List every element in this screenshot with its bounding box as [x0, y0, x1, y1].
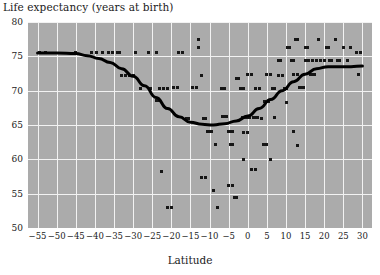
- x-axis-tick-label: 0: [245, 231, 250, 241]
- x-axis-tick-label: −20: [162, 231, 180, 241]
- x-axis-tick-label: −55: [29, 231, 47, 241]
- trend-line-path: [38, 53, 363, 125]
- x-axis-tick-label: −40: [86, 231, 104, 241]
- x-axis-tick-label: −50: [48, 231, 66, 241]
- y-axis-tick-label: 60: [0, 154, 23, 164]
- x-axis-tick-label: 25: [338, 231, 349, 241]
- x-axis-tick-label: −45: [67, 231, 85, 241]
- x-axis-tick-label: −15: [181, 231, 199, 241]
- y-axis-tick-label: 55: [0, 189, 23, 199]
- x-axis-tick-label: −30: [124, 231, 142, 241]
- y-axis-tick-label: 65: [0, 120, 23, 130]
- x-axis-tick-label: 10: [281, 231, 292, 241]
- x-axis-tick-label: −10: [201, 231, 219, 241]
- x-axis-tick-label: −5: [222, 231, 235, 241]
- y-axis-tick-label: 75: [0, 51, 23, 61]
- chart-title: Life expectancy (years at birth): [3, 1, 174, 13]
- plot-area: [28, 22, 372, 228]
- x-axis-title: Latitude: [0, 254, 380, 266]
- life-expectancy-latitude-figure: Life expectancy (years at birth) 5055606…: [0, 0, 380, 275]
- x-axis-tick-label: 20: [319, 231, 330, 241]
- x-axis-tick-label: −25: [143, 231, 161, 241]
- x-axis-tick-label: 15: [300, 231, 311, 241]
- x-axis-tick-label: −35: [105, 231, 123, 241]
- y-axis-tick-label: 70: [0, 86, 23, 96]
- fitted-trend-curve: [28, 22, 372, 228]
- x-axis-tick-labels: −55−50−45−40−35−30−25−20−15−10−505101520…: [0, 231, 380, 245]
- x-axis-tick-label: 30: [357, 231, 368, 241]
- x-axis-tick-label: 5: [264, 231, 269, 241]
- y-axis-tick-label: 80: [0, 17, 23, 27]
